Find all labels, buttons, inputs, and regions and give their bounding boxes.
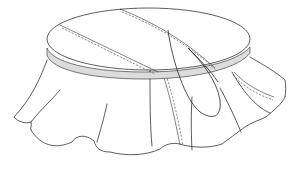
tablecloth-drawing: [0, 0, 290, 170]
skirt-right-edge: [250, 57, 286, 97]
skirt-seam-stitching: [165, 72, 183, 145]
fold-line: [232, 72, 270, 113]
fold-line: [191, 97, 192, 150]
fold-line: [31, 90, 60, 122]
fold-line: [150, 70, 152, 146]
skirt-seam: [162, 72, 180, 145]
top-panel: [47, 8, 250, 70]
fold-line: [97, 104, 107, 142]
illustration-canvas: [0, 0, 290, 170]
skirt-left-edge: [14, 60, 47, 130]
fold-line: [220, 88, 241, 132]
skirt-hem: [31, 97, 285, 155]
